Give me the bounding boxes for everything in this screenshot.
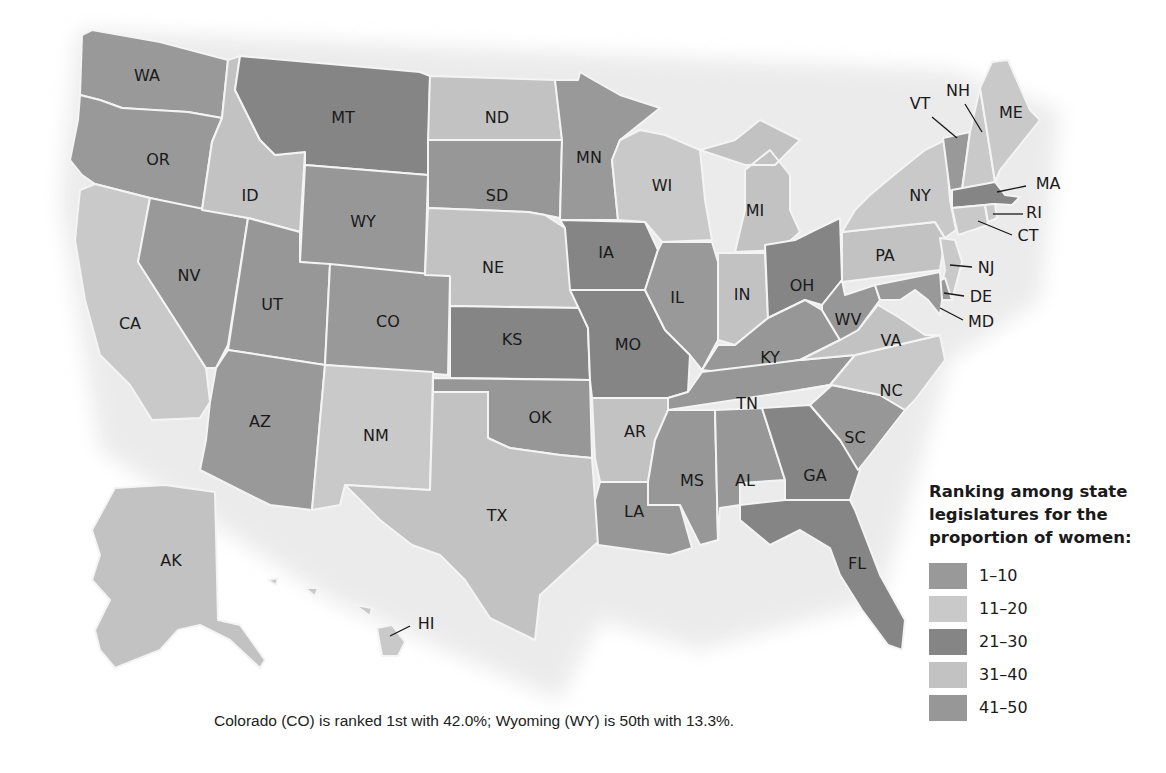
label-nj: NJ	[978, 258, 995, 277]
legend: Ranking among state legislatures for the…	[929, 480, 1159, 724]
label-va: VA	[881, 331, 902, 350]
legend-item-41-50: 41–50	[929, 691, 1159, 724]
label-mo: MO	[615, 335, 641, 354]
label-tx: TX	[486, 506, 508, 525]
label-la: LA	[624, 502, 644, 521]
label-or: OR	[146, 150, 170, 169]
legend-swatch	[929, 563, 967, 589]
legend-title: Ranking among state legislatures for the…	[929, 480, 1159, 549]
label-mt: MT	[331, 108, 355, 127]
label-nh: NH	[946, 81, 970, 100]
state-sd[interactable]	[428, 140, 562, 218]
label-ia: IA	[598, 243, 614, 262]
label-nc: NC	[879, 381, 902, 400]
label-ca: CA	[119, 314, 141, 333]
legend-title-line-1: Ranking among state	[929, 480, 1159, 503]
legend-swatch	[929, 695, 967, 721]
label-nv: NV	[178, 266, 201, 285]
label-in: IN	[734, 285, 751, 304]
legend-item-31-40: 31–40	[929, 658, 1159, 691]
label-mi: MI	[746, 201, 765, 220]
legend-item-11-20: 11–20	[929, 592, 1159, 625]
label-ri: RI	[1026, 203, 1042, 222]
legend-title-line-2: legislatures for the	[929, 503, 1159, 526]
label-ok: OK	[528, 408, 552, 427]
label-mn: MN	[576, 148, 602, 167]
legend-swatch	[929, 629, 967, 655]
label-ks: KS	[502, 330, 523, 349]
label-vt: VT	[910, 94, 931, 113]
label-md: MD	[968, 312, 994, 331]
label-az: AZ	[249, 412, 271, 431]
label-ms: MS	[680, 471, 704, 490]
legend-label: 31–40	[979, 665, 1028, 684]
label-ct: CT	[1018, 226, 1039, 245]
legend-item-1-10: 1–10	[929, 559, 1159, 592]
legend-label: 21–30	[979, 632, 1028, 651]
label-wv: WV	[835, 310, 862, 329]
label-wy: WY	[350, 212, 376, 231]
label-me: ME	[999, 103, 1023, 122]
legend-item-21-30: 21–30	[929, 625, 1159, 658]
label-oh: OH	[790, 276, 815, 295]
label-co: CO	[376, 312, 400, 331]
label-sd: SD	[486, 186, 508, 205]
label-pa: PA	[875, 246, 895, 265]
label-ut: UT	[261, 295, 283, 314]
label-sc: SC	[844, 428, 865, 447]
label-fl: FL	[848, 554, 866, 573]
label-ak: AK	[160, 551, 182, 570]
label-ar: AR	[624, 422, 646, 441]
legend-label: 11–20	[979, 599, 1028, 618]
legend-label: 1–10	[979, 566, 1018, 585]
label-wi: WI	[652, 176, 673, 195]
label-nd: ND	[485, 108, 509, 127]
label-ne: NE	[482, 258, 504, 277]
legend-swatch	[929, 662, 967, 688]
label-ga: GA	[803, 466, 826, 485]
label-ma: MA	[1036, 174, 1061, 193]
state-ri[interactable]	[985, 204, 997, 222]
map-caption: Colorado (CO) is ranked 1st with 42.0%; …	[214, 712, 734, 730]
label-ky: KY	[760, 348, 780, 367]
legend-swatch	[929, 596, 967, 622]
label-tn: TN	[735, 394, 758, 413]
label-il: IL	[670, 288, 684, 307]
label-id: ID	[241, 186, 258, 205]
label-hi: HI	[418, 614, 435, 633]
label-de: DE	[970, 287, 992, 306]
legend-label: 41–50	[979, 698, 1028, 717]
label-ny: NY	[909, 186, 931, 205]
label-nm: NM	[363, 426, 389, 445]
label-al: AL	[735, 471, 755, 490]
legend-title-line-3: proportion of women:	[929, 526, 1159, 549]
label-wa: WA	[134, 66, 160, 85]
